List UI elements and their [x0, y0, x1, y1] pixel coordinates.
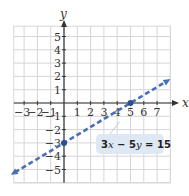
y-axis-arrow-icon — [61, 20, 67, 27]
y-tick-label: −3 — [45, 137, 61, 150]
line-arrow-end-icon — [163, 79, 171, 85]
y-tick-label: 1 — [54, 84, 61, 97]
y-tick-label: 4 — [54, 44, 61, 57]
chart-svg: xy −3−2−1123456754321−1−2−3−4−5 3x − 5y … — [0, 0, 189, 196]
intercept-point — [128, 100, 134, 106]
y-tick-label: −1 — [45, 110, 61, 123]
x-tick-label: 7 — [154, 106, 161, 119]
y-tick-label: 5 — [54, 31, 61, 44]
y-tick-label: 3 — [54, 57, 61, 70]
y-tick-label: −5 — [45, 164, 61, 177]
x-axis-arrow-icon — [172, 100, 179, 106]
y-tick-label: −4 — [45, 150, 61, 163]
intercept-point — [61, 140, 67, 146]
x-tick-label: 6 — [140, 106, 147, 119]
y-tick-label: −2 — [45, 124, 61, 137]
label-leader — [110, 122, 120, 134]
x-tick-label: 1 — [74, 106, 81, 119]
x-axis-label: x — [182, 96, 189, 110]
equation-text: 3x − 5y = 15 — [101, 139, 171, 150]
x-tick-label: 2 — [87, 106, 94, 119]
y-tick-label: 2 — [54, 70, 61, 83]
x-tick-label: 5 — [127, 106, 134, 119]
y-axis-label: y — [59, 7, 67, 21]
equation-label: 3x − 5y = 15 — [96, 122, 171, 154]
